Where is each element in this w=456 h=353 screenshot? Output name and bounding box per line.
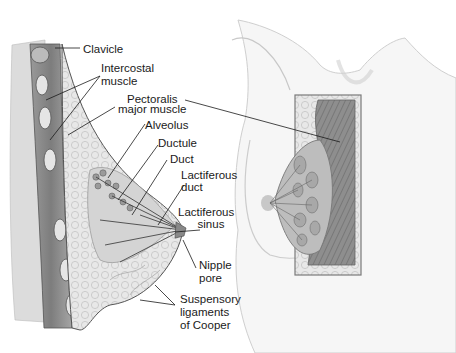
label-clavicle: Clavicle xyxy=(83,43,123,55)
label-cooper-line3: of Cooper xyxy=(180,319,231,331)
label-lactiferous-duct-line1: Lactiferous xyxy=(181,169,237,181)
label-lactiferous-sinus-line1: Lactiferous xyxy=(178,206,234,218)
label-duct: Duct xyxy=(170,153,194,165)
label-nipple-pore-line1: Nipple xyxy=(199,259,232,271)
label-lactiferous-sinus-line2: sinus xyxy=(178,218,244,230)
label-lactiferous-duct-line2: duct xyxy=(181,181,203,193)
label-pectoralis-line2: major muscle xyxy=(118,103,186,115)
label-ductule: Ductule xyxy=(158,137,197,149)
label-intercostal-line1: Intercostal xyxy=(101,62,154,74)
sagittal-section-view xyxy=(10,40,186,330)
label-cooper-line2: ligaments xyxy=(180,306,229,318)
label-alveolus: Alveolus xyxy=(145,119,188,131)
label-nipple-pore-line2: pore xyxy=(199,272,222,284)
label-intercostal-line2: muscle xyxy=(101,75,137,87)
label-cooper-line1: Suspensory xyxy=(180,293,241,305)
frontal-torso-view xyxy=(232,20,456,353)
